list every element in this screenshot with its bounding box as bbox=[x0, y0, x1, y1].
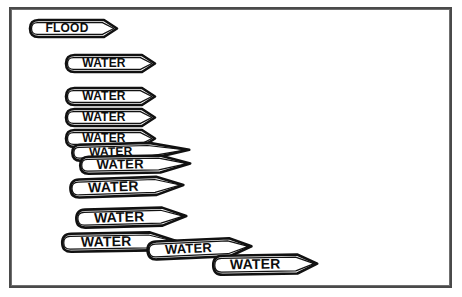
arrow-tag: FLOOD bbox=[26, 16, 121, 41]
tag-label: WATER bbox=[88, 178, 139, 196]
tag-label: WATER bbox=[230, 255, 281, 272]
tag-label: WATER bbox=[94, 208, 145, 225]
figure-canvas: FLOODWATERWATERWATERWATERWATERWATERWATER… bbox=[0, 0, 462, 297]
tag-layer: FLOODWATERWATERWATERWATERWATERWATERWATER… bbox=[0, 0, 462, 297]
tag-label: WATER bbox=[97, 156, 145, 172]
tag-label: WATER bbox=[165, 240, 213, 257]
arrow-tag: WATER bbox=[66, 172, 188, 202]
tag-label: WATER bbox=[82, 56, 126, 70]
tag-label: FLOOD bbox=[46, 21, 89, 35]
arrow-tag: WATER bbox=[62, 51, 159, 76]
tag-label: WATER bbox=[81, 233, 132, 250]
arrow-tag: WATER bbox=[209, 250, 321, 279]
tag-label: WATER bbox=[82, 89, 126, 103]
tag-label: WATER bbox=[82, 110, 126, 124]
